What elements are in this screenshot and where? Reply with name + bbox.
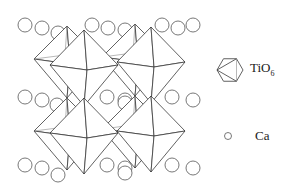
legend-tio6-label: TiO6	[250, 60, 274, 78]
tio6-subscript: 6	[270, 69, 274, 78]
ca-atom	[118, 166, 132, 180]
ca-atom	[35, 93, 49, 107]
ca-atom	[18, 158, 32, 172]
ca-atoms-back	[18, 18, 200, 182]
ca-atom	[186, 161, 200, 175]
ca-atom	[165, 158, 179, 172]
perovskite-structure-diagram	[0, 0, 285, 190]
ca-atom	[171, 21, 185, 35]
legend-ca-label: Ca	[255, 128, 269, 144]
ca-atom	[100, 158, 114, 172]
ca-atom	[18, 90, 32, 104]
legend	[217, 59, 243, 140]
tio6-text: TiO	[250, 60, 270, 75]
ca-atom	[101, 21, 115, 35]
ca-atom	[35, 21, 49, 35]
ca-atom	[18, 18, 32, 32]
ca-atom	[100, 90, 114, 104]
ca-atom	[165, 90, 179, 104]
circle-icon	[225, 133, 232, 140]
ca-atom	[186, 93, 200, 107]
ca-atom	[51, 168, 65, 182]
ca-atom	[35, 161, 49, 175]
ca-atom	[155, 18, 169, 32]
ca-atom	[186, 18, 200, 32]
ca-atom	[85, 18, 99, 32]
